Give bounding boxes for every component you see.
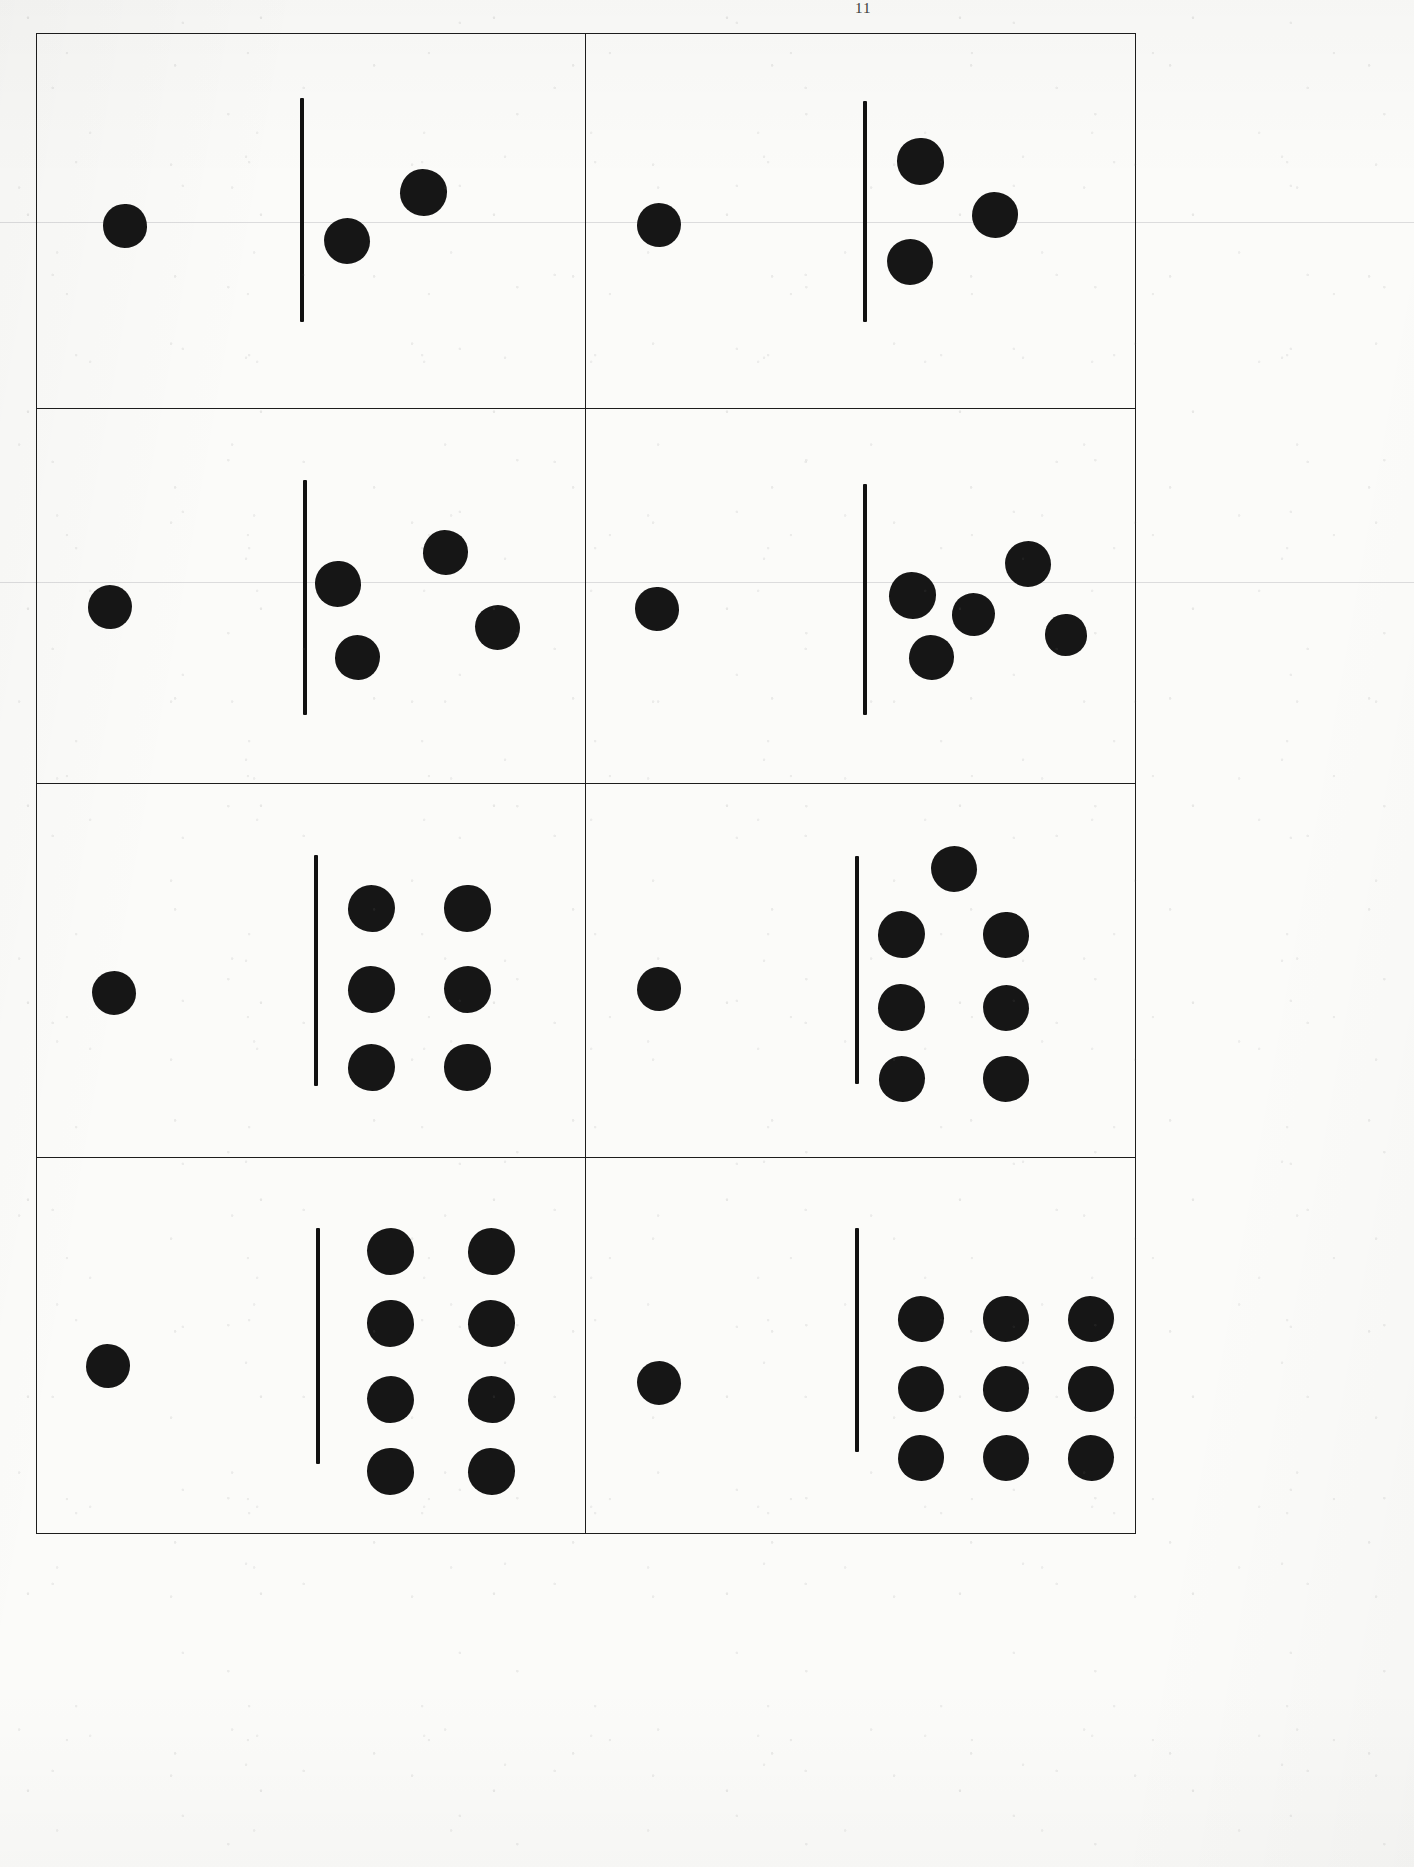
comparison-dot	[878, 984, 925, 1031]
comparison-dot	[898, 1435, 944, 1481]
comparison-dot	[348, 966, 395, 1013]
comparison-dot	[444, 1044, 491, 1091]
comparison-dot	[983, 1296, 1029, 1342]
vertical-divider-bar	[316, 1228, 320, 1464]
reference-dot	[86, 1344, 130, 1388]
comparison-cell-4[interactable]	[586, 409, 1135, 784]
comparison-cell-6[interactable]	[586, 784, 1135, 1159]
left-quantity-panel[interactable]	[37, 1158, 311, 1533]
comparison-dot	[400, 169, 447, 216]
comparison-dot	[468, 1376, 515, 1423]
comparison-dot	[468, 1300, 515, 1347]
right-quantity-panel[interactable]	[311, 409, 585, 783]
comparison-dot	[348, 1044, 395, 1091]
comparison-dot	[952, 593, 995, 636]
reference-dot	[637, 967, 681, 1011]
comparison-dot	[367, 1376, 414, 1423]
comparison-dot	[367, 1228, 414, 1275]
vertical-divider-bar	[863, 101, 867, 322]
right-quantity-panel[interactable]	[311, 34, 585, 408]
left-quantity-panel[interactable]	[37, 34, 311, 408]
worksheet-grid	[36, 33, 1136, 1534]
right-quantity-panel[interactable]	[311, 784, 585, 1158]
comparison-dot	[475, 605, 520, 650]
comparison-dot	[468, 1228, 515, 1275]
comparison-dot	[897, 138, 944, 185]
left-quantity-panel[interactable]	[586, 34, 861, 408]
comparison-dot	[983, 912, 1029, 958]
left-quantity-panel[interactable]	[586, 409, 861, 783]
reference-dot	[637, 203, 681, 247]
comparison-dot	[909, 635, 954, 680]
left-quantity-panel[interactable]	[586, 784, 861, 1158]
comparison-dot	[367, 1300, 414, 1347]
comparison-dot	[931, 846, 977, 892]
comparison-dot	[878, 911, 925, 958]
comparison-dot	[423, 530, 468, 575]
comparison-dot	[983, 1366, 1029, 1412]
right-quantity-panel[interactable]	[861, 409, 1136, 783]
comparison-cell-3[interactable]	[37, 409, 586, 784]
comparison-dot	[889, 572, 936, 619]
reference-dot	[635, 587, 679, 631]
comparison-dot	[1068, 1296, 1114, 1342]
reference-dot	[637, 1361, 681, 1405]
comparison-cell-1[interactable]	[37, 34, 586, 409]
comparison-dot	[879, 1056, 925, 1102]
comparison-dot	[983, 985, 1029, 1031]
comparison-cell-2[interactable]	[586, 34, 1135, 409]
left-quantity-panel[interactable]	[37, 409, 311, 783]
comparison-dot	[348, 885, 395, 932]
vertical-divider-bar	[300, 98, 304, 322]
comparison-cell-8[interactable]	[586, 1158, 1135, 1533]
comparison-dot	[367, 1448, 414, 1495]
vertical-divider-bar	[855, 856, 859, 1084]
comparison-dot	[1045, 614, 1087, 656]
comparison-dot	[898, 1296, 944, 1342]
comparison-dot	[444, 966, 491, 1013]
comparison-dot	[898, 1366, 944, 1412]
comparison-cell-5[interactable]	[37, 784, 586, 1159]
left-quantity-panel[interactable]	[586, 1158, 861, 1533]
right-quantity-panel[interactable]	[861, 34, 1136, 408]
right-quantity-panel[interactable]	[861, 1158, 1136, 1533]
comparison-dot	[972, 192, 1018, 238]
vertical-divider-bar	[314, 855, 318, 1087]
comparison-dot	[315, 561, 361, 607]
left-quantity-panel[interactable]	[37, 784, 311, 1158]
comparison-dot	[983, 1056, 1029, 1102]
right-quantity-panel[interactable]	[861, 784, 1136, 1158]
comparison-dot	[444, 885, 491, 932]
comparison-cell-7[interactable]	[37, 1158, 586, 1533]
comparison-dot	[335, 635, 380, 680]
vertical-divider-bar	[855, 1228, 859, 1453]
comparison-dot	[1068, 1435, 1114, 1481]
reference-dot	[92, 971, 136, 1015]
comparison-dot	[1005, 541, 1051, 587]
vertical-divider-bar	[303, 480, 307, 715]
comparison-dot	[468, 1448, 515, 1495]
vertical-divider-bar	[863, 484, 867, 716]
reference-dot	[88, 585, 132, 629]
comparison-dot	[1068, 1366, 1114, 1412]
page-number-mark: 11	[855, 0, 871, 17]
right-quantity-panel[interactable]	[311, 1158, 585, 1533]
comparison-dot	[983, 1435, 1029, 1481]
comparison-dot	[887, 239, 933, 285]
reference-dot	[103, 204, 147, 248]
comparison-dot	[324, 218, 370, 264]
